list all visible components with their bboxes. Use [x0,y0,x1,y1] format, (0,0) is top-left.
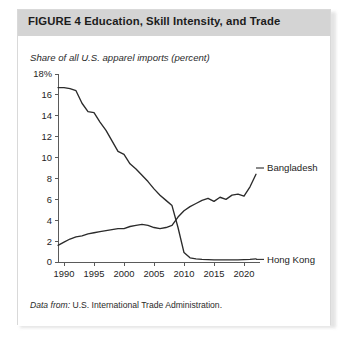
source-prefix: Data from: [30,300,70,310]
y-tick-label: 18% [33,68,52,79]
x-tick-label: 1990 [54,268,75,279]
y-tick-label: 2 [47,236,52,247]
y-tick-label: 14 [42,110,52,121]
x-tick-label: 2005 [144,268,165,279]
figure-card: FIGURE 4 Education, Skill Intensity, and… [17,9,331,325]
x-tick-label: 1995 [84,268,105,279]
x-tick-label: 2010 [174,268,195,279]
y-tick-label: 6 [47,194,52,205]
x-tick-label: 2000 [114,268,135,279]
figure-title: FIGURE 4 Education, Skill Intensity, and… [28,15,280,27]
figure-container: FIGURE 4 Education, Skill Intensity, and… [0,0,347,343]
series-label-hong-kong: Hong Kong [267,254,315,265]
x-tick-label: 2015 [204,268,225,279]
y-tick-label: 12 [42,131,52,142]
series-line-bangladesh [58,174,256,245]
chart-subtitle: Share of all U.S. apparel imports (perce… [30,52,210,63]
y-tick-label: 4 [47,215,52,226]
chart-source-note: Data from: U.S. International Trade Admi… [30,300,222,310]
chart-plot-area: 024681012141618%199019952000200520102015… [18,66,330,292]
figure-header-bar: FIGURE 4 Education, Skill Intensity, and… [18,10,330,36]
y-tick-label: 10 [42,152,52,163]
y-tick-label: 0 [47,256,52,267]
line-chart: 024681012141618%199019952000200520102015… [18,66,330,292]
source-text: U.S. International Trade Administration. [73,300,223,310]
y-tick-label: 16 [42,89,52,100]
figure-body: Share of all U.S. apparel imports (perce… [18,36,330,326]
x-tick-label: 2020 [234,268,255,279]
y-tick-label: 8 [47,173,52,184]
series-label-bangladesh: Bangladesh [267,162,318,173]
